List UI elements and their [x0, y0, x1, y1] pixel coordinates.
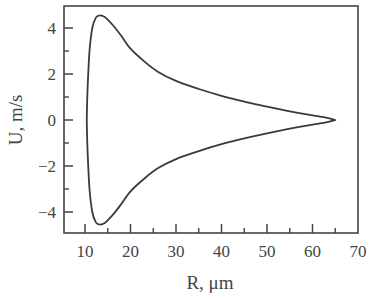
y-tick-label: 2: [48, 65, 57, 84]
x-tick-label: 70: [350, 242, 367, 261]
x-tick-label: 50: [259, 242, 276, 261]
y-tick-label: 4: [48, 19, 57, 38]
phase-plot: 10203040506070 −4−2024 R, μm U, m/s: [0, 0, 376, 299]
x-axis-label: R, μm: [186, 272, 233, 293]
x-tick-label: 30: [168, 242, 185, 261]
data-curve: [87, 15, 335, 224]
x-tick-label: 40: [213, 242, 230, 261]
x-tick-label: 10: [77, 242, 94, 261]
x-tick-label: 60: [304, 242, 321, 261]
plot-frame: [64, 6, 358, 233]
y-tick-label: −2: [38, 157, 56, 176]
y-tick-label: 0: [48, 111, 57, 130]
x-tick-label: 20: [122, 242, 139, 261]
y-axis-ticks: −4−2024: [38, 19, 73, 222]
y-tick-label: −4: [38, 203, 57, 222]
x-axis-ticks: 10203040506070: [77, 224, 367, 261]
y-axis-label: U, m/s: [5, 95, 26, 146]
